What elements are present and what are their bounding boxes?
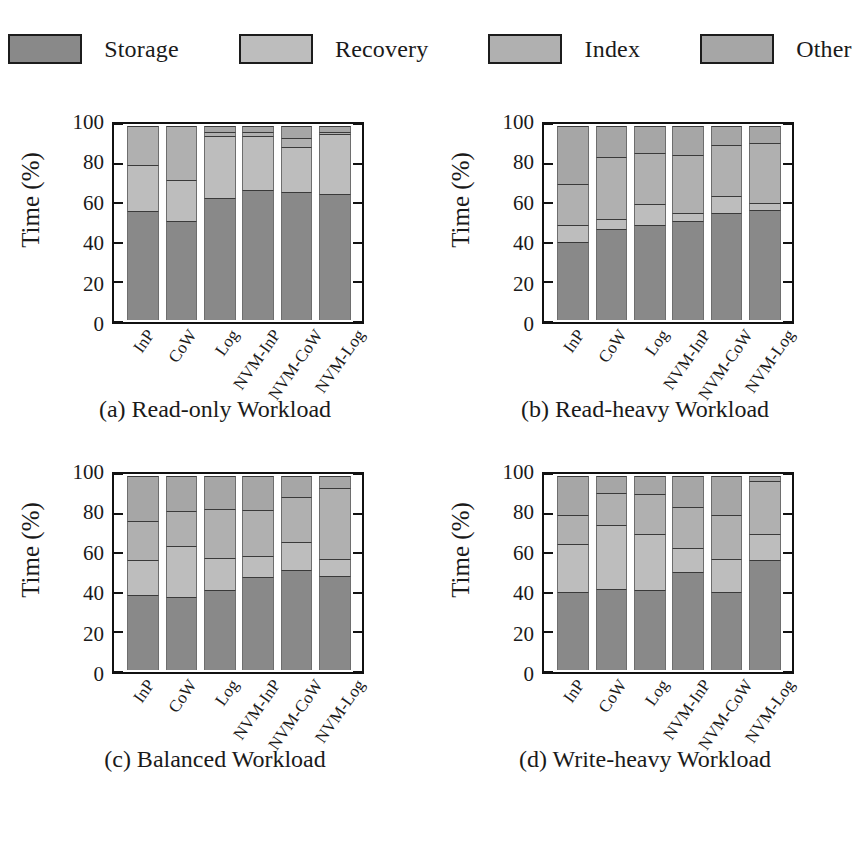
- bar-segment-index: [557, 515, 588, 544]
- bar-segment-index: [166, 126, 197, 180]
- bar-segment-index: [557, 184, 588, 225]
- subplot-b: Time (%)020406080100InPCoWLogNVM-InPNVM-…: [430, 96, 860, 468]
- bar-segment-recovery: [557, 544, 588, 593]
- y-tick-label: 100: [503, 460, 535, 485]
- subplot-caption-c: (c) Balanced Workload: [0, 746, 430, 773]
- y-tick-label: 20: [513, 271, 534, 296]
- x-tick-label-cow: CoW: [594, 326, 631, 367]
- stacked-bar-cow: [166, 476, 197, 670]
- y-tick-mark: [114, 671, 123, 673]
- stacked-bar-cow: [166, 126, 197, 320]
- stacked-bar-nvm-cow: [711, 476, 742, 670]
- bar-segment-other: [557, 126, 588, 184]
- x-tick-label-log: Log: [211, 676, 243, 710]
- bar-slot: [707, 476, 745, 670]
- y-axis-ticks: 020406080100: [486, 122, 538, 324]
- bar-slot: [201, 476, 239, 670]
- y-tick-label: 80: [513, 150, 534, 175]
- plot-area-a: Time (%)020406080100InPCoWLogNVM-InPNVM-…: [0, 102, 430, 342]
- y-tick-mark: [353, 123, 362, 125]
- bar-segment-recovery: [319, 134, 350, 194]
- x-tick-label-log: Log: [641, 326, 673, 360]
- bar-slot: [239, 126, 277, 320]
- y-tick-label: 60: [83, 190, 104, 215]
- bar-group: [116, 476, 360, 670]
- bar-segment-storage: [557, 592, 588, 670]
- subplot-grid: Time (%)020406080100InPCoWLogNVM-InPNVM-…: [0, 96, 860, 841]
- legend-swatch-index: [488, 34, 562, 64]
- bar-segment-other: [319, 476, 350, 488]
- bar-segment-other: [557, 476, 588, 515]
- y-tick-mark: [544, 473, 553, 475]
- bar-segment-storage: [711, 592, 742, 670]
- legend-item-storage: Storage: [8, 34, 239, 64]
- plot-frame-d: [542, 472, 794, 674]
- bar-segment-other: [596, 476, 627, 493]
- y-tick-label: 20: [83, 271, 104, 296]
- bar-segment-index: [672, 155, 703, 213]
- bar-segment-storage: [242, 190, 273, 320]
- stacked-bar-nvm-inp: [672, 476, 703, 670]
- bar-segment-index: [204, 509, 235, 558]
- y-tick-mark: [114, 321, 123, 323]
- stacked-bar-inp: [127, 476, 158, 670]
- bar-segment-storage: [166, 597, 197, 670]
- plot-area-c: Time (%)020406080100InPCoWLogNVM-InPNVM-…: [0, 452, 430, 692]
- bar-group: [546, 476, 790, 670]
- y-tick-mark: [353, 671, 362, 673]
- plot-frame-c: [112, 472, 364, 674]
- stacked-bar-cow: [596, 126, 627, 320]
- bar-slot: [746, 476, 784, 670]
- bar-segment-recovery: [166, 180, 197, 221]
- y-tick-mark: [783, 321, 792, 323]
- bar-segment-other: [166, 476, 197, 511]
- bar-segment-index: [672, 507, 703, 548]
- bar-segment-recovery: [204, 558, 235, 590]
- stacked-bar-log: [204, 126, 235, 320]
- plot-frame-b: [542, 122, 794, 324]
- bar-segment-index: [127, 521, 158, 561]
- bar-slot: [707, 126, 745, 320]
- bar-segment-index: [281, 138, 312, 148]
- bar-segment-recovery: [242, 556, 273, 577]
- bar-slot: [592, 476, 630, 670]
- y-tick-label: 100: [73, 110, 105, 135]
- bar-segment-other: [672, 126, 703, 155]
- stacked-bar-inp: [557, 126, 588, 320]
- bar-segment-storage: [634, 590, 665, 670]
- bar-segment-index: [127, 126, 158, 165]
- y-tick-label: 20: [513, 621, 534, 646]
- y-tick-mark: [114, 123, 123, 125]
- y-tick-label: 100: [503, 110, 535, 135]
- bar-slot: [124, 126, 162, 320]
- bar-segment-recovery: [242, 136, 273, 190]
- legend-item-other: Other: [700, 34, 852, 64]
- bar-segment-storage: [127, 211, 158, 320]
- subplot-a: Time (%)020406080100InPCoWLogNVM-InPNVM-…: [0, 96, 430, 468]
- bar-segment-storage: [749, 210, 780, 320]
- bar-segment-other: [672, 476, 703, 507]
- stacked-bar-nvm-inp: [242, 476, 273, 670]
- bar-segment-recovery: [166, 546, 197, 597]
- x-tick-label-cow: CoW: [164, 676, 201, 717]
- y-axis-label: Time (%): [447, 475, 475, 625]
- bar-slot: [316, 126, 354, 320]
- bar-segment-index: [634, 494, 665, 534]
- subplot-caption-d: (d) Write-heavy Workload: [430, 746, 860, 773]
- x-tick-label-cow: CoW: [594, 676, 631, 717]
- bar-segment-other: [711, 476, 742, 515]
- bar-slot: [746, 126, 784, 320]
- x-tick-label-inp: InP: [560, 326, 590, 357]
- bar-segment-index: [281, 497, 312, 542]
- y-tick-label: 80: [513, 500, 534, 525]
- x-tick-label-log: Log: [641, 676, 673, 710]
- bar-slot: [592, 126, 630, 320]
- stacked-bar-nvm-log: [749, 126, 780, 320]
- legend-item-index: Index: [488, 34, 700, 64]
- bar-segment-storage: [204, 198, 235, 320]
- plot-frame-a: [112, 122, 364, 324]
- stacked-bar-inp: [557, 476, 588, 670]
- bar-slot: [669, 126, 707, 320]
- bar-segment-storage: [319, 194, 350, 320]
- y-tick-label: 0: [94, 662, 105, 687]
